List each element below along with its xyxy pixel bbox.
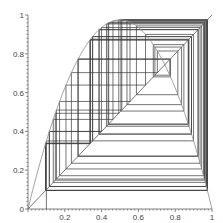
x-tick-label: 0.8	[170, 213, 182, 222]
x-tick-label: 0.4	[96, 213, 108, 222]
cobweb-line	[46, 20, 208, 209]
x-tick-label: 1	[210, 213, 215, 222]
x-tick-label: 0.6	[133, 213, 145, 222]
y-tick-label: 0	[20, 205, 25, 214]
y-tick-label: 1	[20, 11, 25, 20]
y-tick-label: 0.4	[13, 127, 25, 136]
y-tick-label: 0.2	[13, 166, 25, 175]
cobweb-path	[46, 20, 208, 209]
y-tick-label: 0.6	[13, 89, 25, 98]
x-tick-label: 0.2	[59, 213, 71, 222]
cobweb-chart: 0.20.40.60.8100.20.40.60.81	[0, 0, 223, 223]
y-tick-label: 0.8	[13, 50, 25, 59]
